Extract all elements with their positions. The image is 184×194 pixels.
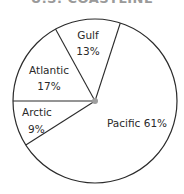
pie-chart: Gulf 13% Atlantic 17% Arctic 9% Pacific …	[0, 0, 184, 194]
label-gulf-name: Gulf	[77, 29, 99, 41]
label-arctic-name: Arctic	[22, 106, 52, 118]
label-atlantic-name: Atlantic	[29, 64, 69, 76]
label-gulf-pct: 13%	[76, 45, 99, 57]
label-atlantic-pct: 17%	[37, 80, 60, 92]
center-dot	[92, 98, 98, 104]
label-pacific: Pacific 61%	[107, 117, 167, 129]
label-arctic-pct: 9%	[28, 123, 45, 135]
